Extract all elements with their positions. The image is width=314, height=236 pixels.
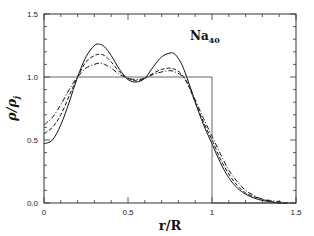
x-tick-label: 0.5 bbox=[122, 208, 134, 217]
density-profile-chart: 00.511.50.00.51.01.5 Na40 r/R ρ/ρj bbox=[0, 0, 314, 236]
plot-frame bbox=[44, 14, 296, 203]
series-solid bbox=[44, 44, 288, 203]
axis-ticks bbox=[44, 14, 296, 203]
series-step-jellium- bbox=[44, 77, 296, 203]
y-tick-label: 1.0 bbox=[27, 73, 39, 82]
x-axis-title: r/R bbox=[159, 218, 182, 233]
series-group bbox=[44, 44, 296, 203]
system-label: Na40 bbox=[190, 29, 220, 45]
y-tick-label: 1.5 bbox=[27, 10, 39, 19]
y-tick-label: 0.0 bbox=[27, 199, 39, 208]
series-dash-dot bbox=[44, 63, 288, 203]
x-tick-label: 1 bbox=[210, 208, 215, 217]
y-tick-label: 0.5 bbox=[27, 136, 39, 145]
y-axis-title: ρ/ρj bbox=[4, 96, 21, 122]
tick-labels: 00.511.50.00.51.01.5 bbox=[27, 10, 302, 217]
x-tick-label: 0 bbox=[42, 208, 47, 217]
x-tick-label: 1.5 bbox=[290, 208, 302, 217]
